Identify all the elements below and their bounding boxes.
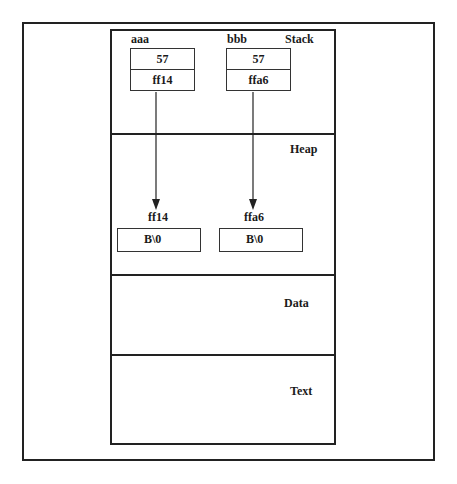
data-text-divider: [110, 354, 336, 356]
stack-cell-bbb: 57 ffa6: [226, 48, 291, 91]
var-name-bbb: bbb: [227, 32, 247, 46]
stack-label: Stack: [285, 32, 314, 46]
text-label: Text: [290, 384, 312, 398]
aaa-value: 57: [131, 49, 194, 69]
data-label: Data: [284, 296, 309, 310]
heap-data-divider: [110, 274, 336, 276]
heap-block-1: B\0: [117, 228, 201, 252]
aaa-pointer: ff14: [131, 69, 194, 90]
heap-address-ff14: ff14: [148, 210, 168, 224]
stack-cell-aaa: 57 ff14: [130, 48, 195, 91]
bbb-value: 57: [227, 49, 290, 69]
heap-block-2: B\0: [219, 228, 303, 252]
heap-address-ffa6: ffa6: [244, 210, 264, 224]
stack-heap-divider: [110, 133, 336, 135]
heap-label: Heap: [290, 142, 317, 156]
var-name-aaa: aaa: [131, 32, 149, 46]
bbb-pointer: ffa6: [227, 69, 290, 90]
